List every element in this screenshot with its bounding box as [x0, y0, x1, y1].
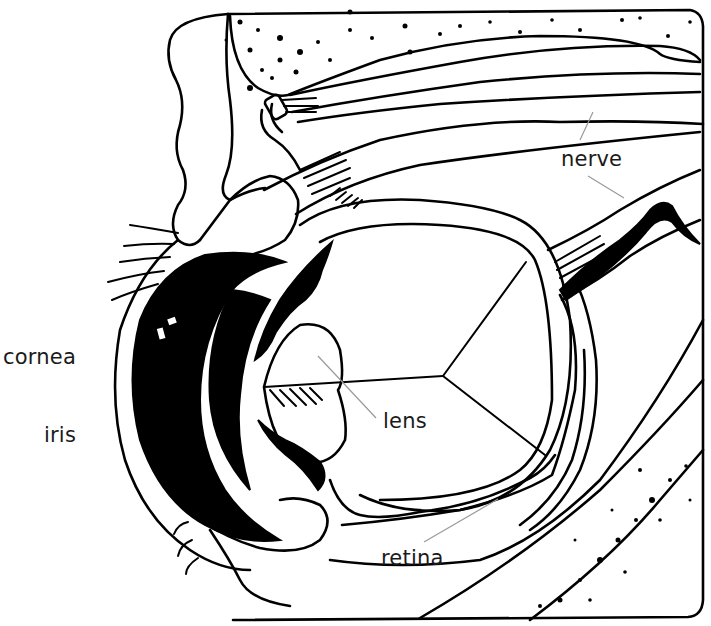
label-lens: lens — [383, 409, 427, 433]
vitreous-line-lower — [443, 376, 545, 455]
retina-layer-2 — [342, 295, 576, 525]
retina-layer-1 — [330, 455, 555, 517]
brow-line — [223, 14, 265, 200]
ciliary-body-lower — [258, 420, 325, 490]
upper-eyelid — [200, 176, 298, 255]
lens-pointer-line — [318, 356, 376, 418]
vitreous-line-horizontal — [264, 376, 443, 387]
label-iris: iris — [44, 423, 76, 447]
orbit-bone-outer — [530, 450, 703, 620]
muscle-upper-3 — [298, 92, 700, 122]
face-profile — [168, 14, 228, 245]
bone-speckles-top — [225, 10, 692, 92]
iris-region — [209, 290, 270, 490]
lens-hatching — [270, 388, 322, 406]
eye-diagram — [0, 0, 711, 626]
optic-nerve-core — [560, 203, 700, 300]
label-cornea: cornea — [3, 345, 76, 369]
muscle-upper-2 — [292, 73, 700, 112]
label-retina: retina — [381, 546, 444, 570]
tendon — [261, 104, 300, 170]
sclera-inner — [320, 224, 552, 500]
vitreous-line-upper — [443, 262, 526, 376]
label-nerve: nerve — [561, 147, 622, 171]
bone-speckles-bottom — [538, 464, 692, 608]
